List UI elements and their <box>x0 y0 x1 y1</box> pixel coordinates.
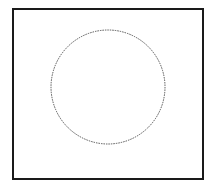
dotted-circle <box>51 30 165 144</box>
diagram-canvas <box>0 0 220 186</box>
